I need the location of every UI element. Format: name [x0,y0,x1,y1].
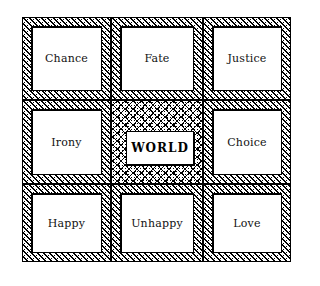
cell-panel: Fate [120,26,194,91]
cell-choice[interactable]: Choice [203,100,291,184]
cell-label: Fate [144,52,169,65]
cell-panel: Love [212,193,282,253]
cell-label: Justice [227,52,266,65]
cell-unhappy[interactable]: Unhappy [111,184,203,262]
cell-panel: Irony [31,109,102,175]
cell-label: Choice [227,136,267,149]
cell-label: Chance [45,52,88,65]
cell-label: Happy [48,217,85,230]
world-label: WORLD [131,141,189,155]
cell-panel: Justice [212,26,282,91]
cell-irony[interactable]: Irony [22,100,111,184]
word-grid-board: Chance Fate Justice Irony WORLD Choice H… [22,17,291,262]
cell-justice[interactable]: Justice [203,17,291,100]
cell-panel: Unhappy [120,193,194,253]
cell-label: Love [233,217,260,230]
cell-fate[interactable]: Fate [111,17,203,100]
cell-panel: Chance [31,26,102,91]
cell-world-center[interactable]: WORLD [111,100,203,184]
cell-chance[interactable]: Chance [22,17,111,100]
cell-label: Irony [51,136,82,149]
cell-label: Unhappy [131,217,183,230]
cell-panel: Happy [31,193,102,253]
cell-panel: Choice [212,109,282,175]
cell-happy[interactable]: Happy [22,184,111,262]
world-title-box: WORLD [126,131,194,165]
cell-love[interactable]: Love [203,184,291,262]
